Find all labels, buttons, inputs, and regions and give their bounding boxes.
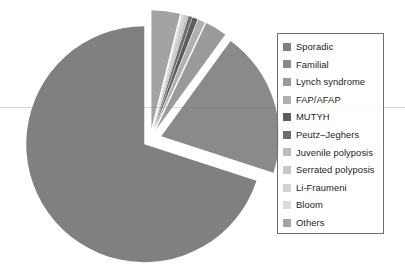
legend-item-label: Lynch syndrome [296, 77, 365, 86]
pie-slices [26, 10, 279, 262]
legend-swatch-icon [283, 219, 291, 227]
legend-item-label: Li-Fraumeni [296, 183, 347, 192]
legend-swatch-icon [283, 131, 291, 139]
legend-item[interactable]: Serrated polyposis [283, 161, 383, 179]
legend-swatch-icon [283, 148, 291, 156]
legend-item[interactable]: Others [283, 214, 383, 232]
legend-swatch-icon [283, 201, 291, 209]
pie-chart-screenshot: SporadicFamilialLynch syndromeFAP/AFAPMU… [0, 0, 405, 279]
chart-legend: SporadicFamilialLynch syndromeFAP/AFAPMU… [277, 33, 384, 234]
legend-item[interactable]: Bloom [283, 196, 383, 214]
legend-item-label: Juvenile polyposis [296, 148, 373, 157]
legend-item[interactable]: FAP/AFAP [283, 91, 383, 109]
legend-item[interactable]: Lynch syndrome [283, 73, 383, 91]
legend-item-label: Familial [296, 60, 329, 69]
legend-item-label: Peutz–Jeghers [296, 130, 359, 139]
legend-swatch-icon [283, 43, 291, 51]
legend-item-label: Bloom [296, 200, 323, 209]
legend-item-label: Serrated polyposis [296, 165, 375, 174]
legend-swatch-icon [283, 184, 291, 192]
legend-swatch-icon [283, 113, 291, 121]
legend-item-label: Others [296, 218, 324, 227]
legend-swatch-icon [283, 96, 291, 104]
legend-item[interactable]: Juvenile polyposis [283, 144, 383, 162]
legend-swatch-icon [283, 166, 291, 174]
legend-item[interactable]: Peutz–Jeghers [283, 126, 383, 144]
legend-item[interactable]: MUTYH [283, 108, 383, 126]
legend-item-label: MUTYH [296, 112, 330, 121]
legend-item[interactable]: Sporadic [283, 38, 383, 56]
legend-item[interactable]: Familial [283, 56, 383, 74]
legend-swatch-icon [283, 60, 291, 68]
legend-item-label: Sporadic [296, 42, 333, 51]
legend-item[interactable]: Li-Fraumeni [283, 179, 383, 197]
legend-item-label: FAP/AFAP [296, 95, 341, 104]
legend-swatch-icon [283, 78, 291, 86]
